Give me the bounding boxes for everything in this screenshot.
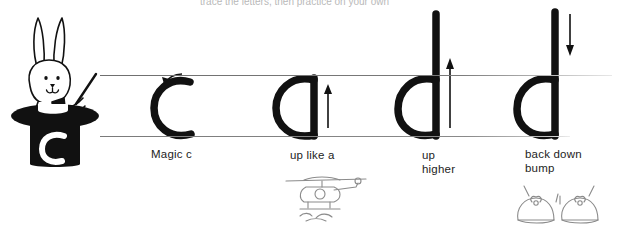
magician-rabbit-illustration <box>8 12 116 172</box>
step-caption-2: up like a <box>290 149 335 163</box>
letter-cell-3: up higher <box>392 0 510 230</box>
helicopter-sketch <box>270 168 382 226</box>
guideline-midline <box>100 75 612 76</box>
letter-cell-4: back down bump <box>505 0 621 230</box>
shoes-sketch <box>502 180 614 230</box>
letter-cell-2: up like a <box>266 0 386 230</box>
step-caption-3: up higher <box>422 149 455 176</box>
step-caption-1: Magic c <box>151 148 192 162</box>
handwriting-worksheet: trace the letters, then practice on your… <box>0 0 621 230</box>
step-caption-4: back down bump <box>525 148 582 175</box>
letter-cell-1: Magic c <box>138 0 256 230</box>
guideline-baseline <box>100 136 570 137</box>
